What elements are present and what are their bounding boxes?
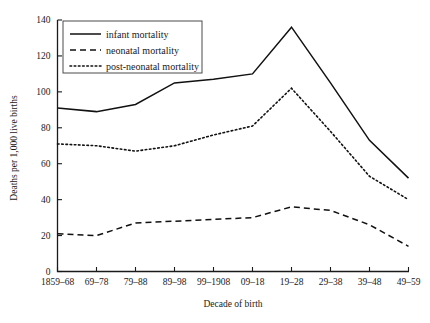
x-tick-label: 1859–68 (41, 277, 75, 287)
x-tick-label: 29–38 (319, 277, 343, 287)
y-tick-label: 140 (36, 15, 51, 25)
x-tick-label: 89–98 (163, 277, 187, 287)
y-axis-tick-labels: 020406080100120140 (36, 15, 51, 277)
x-tick-label: 69–78 (85, 277, 109, 287)
series-post-neonatal-mortality (58, 88, 409, 199)
y-tick-label: 120 (36, 51, 51, 61)
x-tick-label: 99–1908 (197, 277, 231, 287)
series-neonatal-mortality (58, 207, 409, 247)
line-chart: 020406080100120140 1859–6869–7879–8889–9… (0, 0, 430, 323)
legend-label: neonatal mortality (106, 45, 179, 56)
y-tick-label: 100 (36, 87, 51, 97)
y-tick-label: 20 (41, 231, 51, 241)
y-tick-label: 0 (46, 267, 51, 277)
x-tick-label: 19–28 (280, 277, 304, 287)
x-axis-title: Decade of birth (203, 299, 262, 309)
y-tick-label: 60 (41, 159, 51, 169)
y-tick-label: 80 (41, 123, 51, 133)
x-tick-label: 79–88 (124, 277, 148, 287)
x-tick-label: 09–18 (241, 277, 265, 287)
y-tick-label: 40 (41, 195, 51, 205)
legend-label: post-neonatal mortality (106, 61, 199, 72)
legend: infant mortalityneonatal mortalitypost-n… (63, 21, 202, 73)
x-axis-ticks (58, 267, 409, 272)
x-tick-label: 39–48 (358, 277, 382, 287)
x-axis-tick-labels: 1859–6869–7879–8889–9899–190809–1819–282… (41, 277, 421, 287)
chart-screenshot: 020406080100120140 1859–6869–7879–8889–9… (0, 0, 430, 323)
x-tick-label: 49–59 (397, 277, 421, 287)
legend-label: infant mortality (106, 29, 169, 40)
y-axis-title: Deaths per 1,000 live births (9, 95, 19, 201)
